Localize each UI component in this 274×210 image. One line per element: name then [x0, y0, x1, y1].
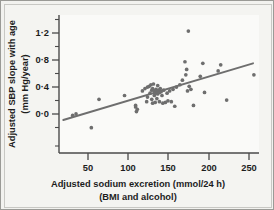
scatter-point: [71, 114, 75, 118]
x-axis-ticks: [88, 153, 249, 160]
plot-panel-background: [59, 15, 259, 153]
scatter-point: [168, 89, 172, 93]
scatter-point: [160, 94, 164, 98]
y-axis-label-line1: Adjusted SBP slope with age: [7, 20, 17, 148]
x-tick-label-100: 100: [120, 163, 136, 173]
scatter-point: [153, 101, 157, 105]
scatter-point: [134, 104, 138, 108]
y-tick-label-0-0: 0·0: [36, 109, 49, 119]
y-axis-label-line2: (mm Hg/year): [20, 54, 30, 113]
scatter-point: [171, 88, 175, 92]
x-tick-label-200: 200: [201, 163, 217, 173]
scatter-point: [135, 107, 139, 111]
x-tick-label-50: 50: [83, 163, 93, 173]
scatter-chart: 1·2 0·8 0·4 0·0 50 100 150 200 250 Adjus…: [1, 1, 274, 210]
x-axis-tick-labels: 50 100 150 200 250: [83, 163, 257, 173]
scatter-point: [145, 100, 149, 104]
scatter-point: [216, 69, 220, 73]
scatter-point: [189, 88, 193, 92]
scatter-point: [89, 126, 93, 130]
scatter-point: [192, 104, 196, 108]
scatter-point: [183, 60, 187, 64]
scatter-point: [166, 99, 170, 103]
plot-svg: 1·2 0·8 0·4 0·0 50 100 150 200 250 Adjus…: [1, 1, 274, 210]
scatter-point: [181, 78, 185, 82]
scatter-point: [169, 100, 173, 104]
scatter-point: [219, 63, 223, 67]
y-axis-ticks: [52, 20, 59, 147]
scatter-point: [252, 73, 256, 77]
x-tick-label-150: 150: [160, 163, 176, 173]
scatter-point: [203, 91, 207, 95]
scatter-point: [225, 98, 229, 102]
scatter-point: [146, 95, 150, 99]
y-tick-label-0-4: 0·4: [36, 82, 50, 92]
scatter-point: [201, 61, 205, 65]
x-axis-label-line2: (BMI and alcohol): [99, 192, 176, 202]
scatter-point: [178, 83, 182, 87]
figure-container: 1·2 0·8 0·4 0·0 50 100 150 200 250 Adjus…: [0, 0, 274, 210]
scatter-point: [184, 73, 188, 77]
scatter-point: [162, 88, 166, 92]
scatter-point: [156, 84, 160, 88]
y-axis-tick-labels: 1·2 0·8 0·4 0·0: [36, 28, 50, 119]
y-tick-label-1-2: 1·2: [36, 28, 49, 38]
scatter-point: [97, 97, 101, 101]
scatter-point: [186, 89, 190, 93]
scatter-point: [173, 104, 177, 108]
y-tick-label-0-8: 0·8: [36, 55, 49, 65]
scatter-point: [150, 97, 154, 101]
scatter-point: [74, 112, 78, 116]
scatter-point: [158, 100, 162, 104]
scatter-point: [155, 97, 159, 101]
x-tick-label-250: 250: [241, 163, 257, 173]
scatter-point: [198, 74, 202, 78]
scatter-point: [123, 94, 127, 98]
scatter-point: [175, 85, 179, 89]
scatter-point: [152, 82, 156, 86]
scatter-point: [185, 68, 189, 72]
scatter-point: [187, 29, 191, 33]
x-axis-label-line1: Adjusted sodium excretion (mmol/24 h): [51, 179, 225, 189]
